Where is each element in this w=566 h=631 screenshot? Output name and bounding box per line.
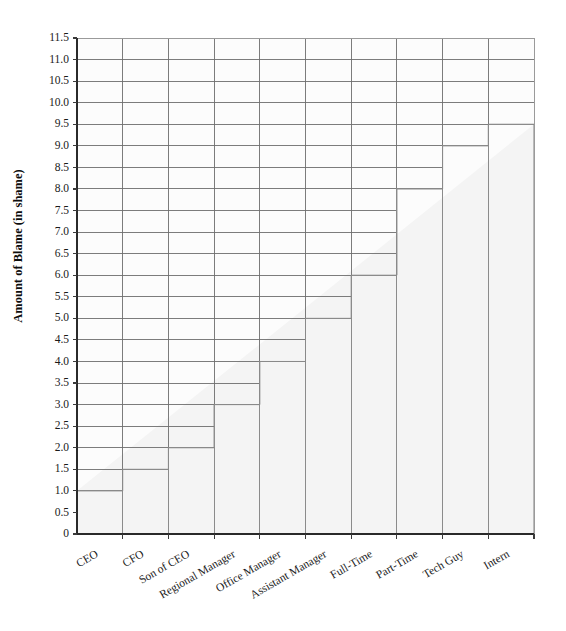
y-tick-label: 10.0	[49, 96, 69, 108]
y-tick-label: 11.5	[49, 31, 69, 43]
y-tick-label: 2.5	[55, 419, 70, 431]
y-axis-title-text: Amount of Blame (in shame)	[11, 169, 25, 322]
y-tick-label: 1.5	[55, 462, 70, 474]
blame-bar-chart: 00.51.01.52.02.53.03.54.04.55.05.56.06.5…	[0, 0, 566, 631]
y-tick-label: 10.5	[49, 74, 69, 86]
y-tick-label: 4.5	[55, 333, 70, 345]
y-tick-label: 5.0	[55, 311, 70, 323]
chart-container: 00.51.01.52.02.53.03.54.04.55.05.56.06.5…	[0, 0, 566, 631]
y-tick-label: 2.0	[55, 441, 70, 453]
y-tick-label: 8.0	[55, 182, 70, 194]
y-tick-label: 0.5	[55, 506, 70, 518]
y-tick-label: 0	[63, 527, 69, 539]
y-tick-label: 6.5	[55, 247, 70, 259]
y-tick-label: 3.0	[55, 398, 70, 410]
y-tick-label: 9.5	[55, 117, 70, 129]
y-tick-label: 6.0	[55, 268, 70, 280]
y-tick-label: 1.0	[55, 484, 70, 496]
y-tick-label: 11.0	[49, 53, 69, 65]
y-tick-label: 7.5	[55, 204, 70, 216]
y-tick-label: 7.0	[55, 225, 70, 237]
y-tick-label: 5.5	[55, 290, 70, 302]
y-tick-label: 4.0	[55, 355, 70, 367]
y-tick-label: 8.5	[55, 161, 70, 173]
y-axis-title: Amount of Blame (in shame)	[11, 169, 25, 322]
y-tick-label: 3.5	[55, 376, 70, 388]
y-tick-label: 9.0	[55, 139, 70, 151]
